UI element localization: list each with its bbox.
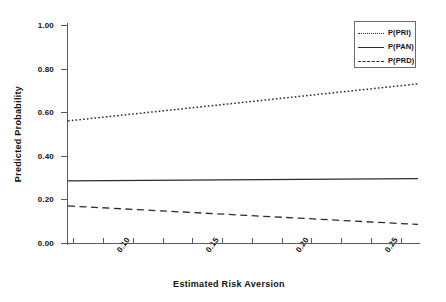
legend-item-pprd: P(PRD) [355,53,415,68]
legend-label: P(PAN) [388,42,414,51]
series-line-ppri [68,84,418,121]
legend-label: P(PRD) [388,56,414,65]
legend-swatch-dotted [358,28,384,38]
series-line-pprd [68,206,418,225]
chart-legend: P(PRI)P(PAN)P(PRD) [354,21,416,68]
legend-swatch-solid [358,42,384,52]
legend-item-ppri: P(PRI) [355,25,415,40]
chart-figure: Predicted Probability Estimated Risk Ave… [0,0,446,302]
legend-label: P(PRI) [388,28,411,37]
legend-item-ppan: P(PAN) [355,39,415,54]
legend-swatch-dashed [358,56,384,66]
series-line-ppan [68,179,418,181]
